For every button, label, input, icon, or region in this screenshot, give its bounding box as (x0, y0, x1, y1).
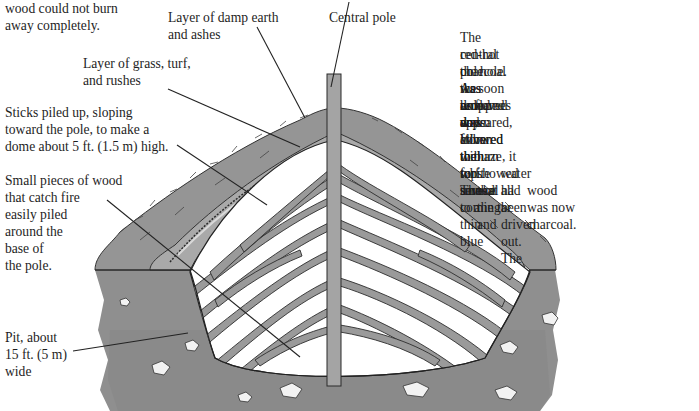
label-small-pieces-of-wood: Small pieces of wood that catch fire eas… (5, 172, 122, 274)
label-damp-earth-layer: Layer of damp earth and ashes (168, 9, 279, 43)
label-top-left-fragment: wood could not burn away completely. (5, 0, 118, 34)
label-central-pole: Central pole (329, 9, 396, 26)
description-line: wood was now charcoal. (527, 182, 576, 233)
label-grass-turf-layer: Layer of grass, turf, and rushes (83, 55, 191, 89)
central-pole (327, 74, 341, 386)
label-pit-width: Pit, about 15 ft. (5 m) wide (5, 329, 67, 380)
label-sticks: Sticks piled up, sloping toward the pole… (5, 104, 168, 155)
